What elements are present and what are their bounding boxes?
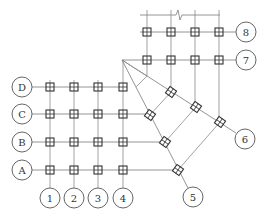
column-node <box>191 28 199 36</box>
svg-text:C: C <box>18 109 26 120</box>
column-node <box>70 83 78 91</box>
column-node <box>70 166 78 174</box>
svg-text:4: 4 <box>120 193 126 204</box>
axis-bubble-A: A <box>12 160 32 180</box>
tie-line-0 <box>136 76 147 87</box>
svg-text:3: 3 <box>95 193 101 204</box>
axis-bubble-7: 7 <box>236 50 256 70</box>
column-node <box>167 56 175 64</box>
svg-text:7: 7 <box>243 55 249 66</box>
column-node <box>215 28 223 36</box>
column-node <box>70 110 78 118</box>
column-node <box>143 56 151 64</box>
column-node <box>167 28 175 36</box>
axis-bubble-B: B <box>12 132 32 152</box>
axis-bubble-C: C <box>12 104 32 124</box>
column-node <box>46 83 54 91</box>
axis-bubble-2: 2 <box>64 188 84 208</box>
column-node <box>46 138 54 146</box>
tie-line-1 <box>150 92 171 115</box>
column-node <box>119 166 127 174</box>
axis-grid-diagram: D C B A 1 2 3 4 8 7 5 6 <box>0 0 268 220</box>
axis-bubble-1: 1 <box>40 188 60 208</box>
column-node <box>215 56 223 64</box>
svg-text:5: 5 <box>190 192 196 203</box>
axis-bubble-5: 5 <box>183 187 203 207</box>
axis-bubble-8: 8 <box>236 22 256 42</box>
axis-bubble-6: 6 <box>235 129 255 149</box>
axis-bubble-D: D <box>12 77 32 97</box>
column-node <box>94 138 102 146</box>
axis-bubble-4: 4 <box>113 188 133 208</box>
column-node <box>143 28 151 36</box>
svg-text:6: 6 <box>242 134 248 145</box>
column-node <box>119 83 127 91</box>
column-node <box>46 166 54 174</box>
tie-line-3 <box>178 122 220 170</box>
column-node <box>94 110 102 118</box>
column-node <box>46 110 54 118</box>
svg-text:8: 8 <box>243 27 249 38</box>
tie-line-2 <box>165 107 196 142</box>
top-grid-lines <box>122 10 236 122</box>
column-node <box>70 138 78 146</box>
axis-bubble-3: 3 <box>88 188 108 208</box>
column-node <box>119 138 127 146</box>
svg-text:1: 1 <box>47 193 53 204</box>
svg-text:B: B <box>18 137 25 148</box>
svg-text:2: 2 <box>71 193 77 204</box>
column-node <box>94 166 102 174</box>
column-node <box>119 110 127 118</box>
column-node <box>191 56 199 64</box>
break-line <box>140 10 220 20</box>
column-node <box>94 83 102 91</box>
svg-text:D: D <box>18 82 26 93</box>
column-nodes <box>46 28 226 176</box>
svg-text:A: A <box>17 165 26 176</box>
